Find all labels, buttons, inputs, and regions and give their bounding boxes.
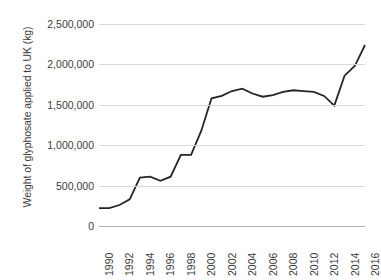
x-tick-label: 2008 — [287, 240, 299, 276]
x-tick-label: 1994 — [144, 240, 156, 276]
x-tick-label: 2012 — [328, 240, 340, 276]
x-tick-label: 2014 — [349, 240, 361, 276]
x-tick-label: 2010 — [308, 240, 320, 276]
x-tick-label: 2006 — [267, 240, 279, 276]
x-tick-label: 2002 — [226, 240, 238, 276]
x-tick-label: 1996 — [164, 240, 176, 276]
x-tick-label: 1990 — [103, 240, 115, 276]
x-tick-label: 1998 — [185, 240, 197, 276]
x-tick-label: 2016 — [369, 240, 381, 276]
x-tick-label: 2000 — [205, 240, 217, 276]
x-tick-label: 1992 — [123, 240, 135, 276]
x-tick-label: 2004 — [246, 240, 258, 276]
